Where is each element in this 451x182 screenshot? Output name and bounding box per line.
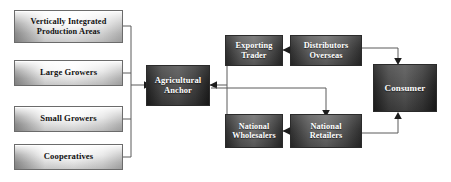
arrowhead-into-national-wholesalers [283, 127, 291, 135]
node-vertically-integrated-production-areas[interactable]: Vertically Integrated Production Areas [14, 10, 123, 43]
node-label: National Retailers [291, 122, 361, 141]
connector-distributors-to-consumer [362, 48, 398, 58]
flowchart-diagram: Vertically Integrated Production Areas L… [0, 0, 451, 182]
node-label: Consumer [374, 83, 436, 93]
arrowhead-into-consumer-bottom [394, 112, 402, 119]
node-national-retailers[interactable]: National Retailers [290, 114, 362, 148]
node-label: Distributors Overseas [291, 41, 361, 60]
node-label: Cooperatives [15, 152, 122, 162]
node-label: Exporting Trader [226, 41, 282, 60]
node-small-growers[interactable]: Small Growers [14, 106, 123, 132]
node-large-growers[interactable]: Large Growers [14, 60, 123, 86]
node-consumer[interactable]: Consumer [373, 64, 437, 112]
arrowhead-trunk-into-agricultural-anchor [210, 81, 218, 89]
node-label: National Wholesalers [226, 122, 282, 140]
node-cooperatives[interactable]: Cooperatives [14, 144, 123, 170]
arrowhead-into-exporting-trader [283, 46, 291, 54]
node-label: Vertically Integrated Production Areas [15, 17, 122, 36]
connector-national-retailers-to-consumer [362, 119, 398, 133]
node-national-wholesalers[interactable]: National Wholesalers [225, 114, 283, 148]
node-label: Small Growers [15, 114, 122, 124]
connector-anchor-to-national-retailers [211, 88, 326, 110]
connector-vertically-integrated-to-bus [123, 26, 131, 85]
node-label: Agricultural Anchor [147, 76, 209, 95]
node-agricultural-anchor[interactable]: Agricultural Anchor [146, 65, 210, 106]
node-label: Large Growers [15, 68, 122, 78]
node-exporting-trader[interactable]: Exporting Trader [225, 35, 283, 66]
connector-cooperatives-to-bus [123, 85, 131, 157]
node-distributors-overseas[interactable]: Distributors Overseas [290, 35, 362, 66]
